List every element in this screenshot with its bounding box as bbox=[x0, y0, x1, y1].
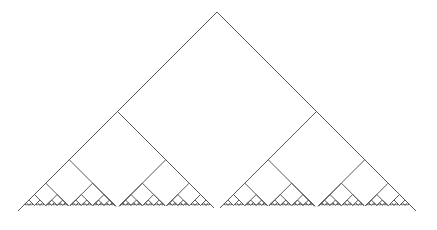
tree-drawing bbox=[0, 0, 437, 230]
branch-path bbox=[18, 12, 416, 211]
fractal-tree-diagram bbox=[0, 0, 437, 230]
tree-branches bbox=[18, 12, 416, 211]
